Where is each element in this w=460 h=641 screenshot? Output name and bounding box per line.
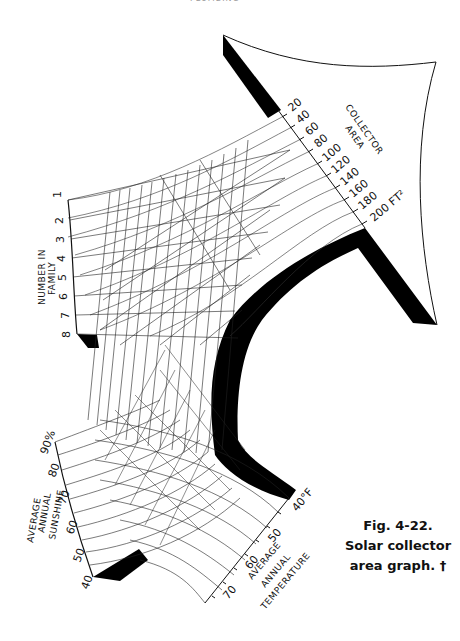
family-tick: 4 (55, 255, 68, 262)
family-tick: 8 (60, 331, 73, 338)
collector-tick-labels: 20 40 60 80 100 120 140 160 180 200 FT² (286, 95, 408, 224)
family-tick: 1 (51, 191, 64, 198)
sunshine-tick: 50 (71, 546, 88, 564)
family-tick: 5 (56, 274, 69, 281)
family-tick: 7 (59, 312, 72, 319)
family-tick: 3 (54, 236, 67, 243)
collector-curves (68, 117, 362, 336)
family-axis-title: FAMILY (47, 262, 57, 295)
figure-caption: Fig. 4-22. Solar collector area graph. † (338, 516, 458, 576)
caption-line: Fig. 4-22. (338, 516, 458, 536)
shadow-wedge-sunshine (93, 549, 148, 581)
family-axis-title: NUMBER IN (37, 249, 47, 305)
shadow-bar-top (223, 35, 281, 118)
caption-line: Solar collector (338, 536, 458, 556)
shadow-bar-right (211, 228, 437, 500)
temperature-tick: 70 (220, 583, 239, 602)
caption-line: area graph. † (338, 556, 458, 576)
family-tick: 2 (53, 217, 66, 224)
family-tick: 6 (57, 293, 70, 300)
